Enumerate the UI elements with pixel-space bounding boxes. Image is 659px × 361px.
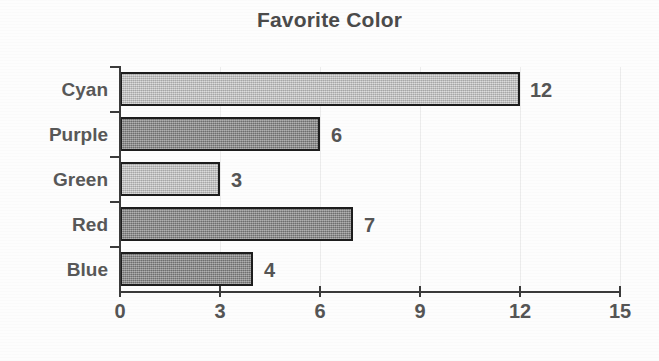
x-axis-tick	[119, 286, 121, 297]
category-label-red: Red	[0, 214, 108, 236]
y-axis-line	[119, 66, 121, 293]
bar-red[interactable]	[120, 207, 353, 241]
x-tick-label: 9	[400, 300, 440, 323]
value-label-purple: 6	[331, 124, 342, 147]
gridline-15	[620, 67, 621, 292]
value-label-cyan: 12	[530, 79, 552, 102]
page-title: Favorite Color	[0, 8, 659, 32]
x-axis-tick	[519, 286, 521, 297]
x-axis-line	[119, 291, 621, 293]
category-label-purple: Purple	[0, 124, 108, 146]
category-label-cyan: Cyan	[0, 79, 108, 101]
chart-figure: Favorite Color 12 6 3 7 4 Cyan Purple Gr…	[0, 0, 659, 361]
x-tick-label: 12	[500, 300, 540, 323]
bar-green[interactable]	[120, 162, 220, 196]
x-tick-label: 0	[100, 300, 140, 323]
category-label-green: Green	[0, 169, 108, 191]
x-axis-tick	[319, 286, 321, 297]
x-axis-tick	[219, 286, 221, 297]
x-tick-label: 3	[200, 300, 240, 323]
bar-purple[interactable]	[120, 117, 320, 151]
gridline-12	[520, 67, 521, 292]
bar-blue[interactable]	[120, 252, 253, 286]
value-label-blue: 4	[264, 259, 275, 282]
x-tick-label: 6	[300, 300, 340, 323]
value-label-red: 7	[364, 214, 375, 237]
x-axis-tick	[619, 286, 621, 297]
category-label-blue: Blue	[0, 259, 108, 281]
x-axis-tick	[419, 286, 421, 297]
x-tick-label: 15	[600, 300, 640, 323]
bar-cyan[interactable]	[120, 72, 520, 106]
value-label-green: 3	[231, 169, 242, 192]
